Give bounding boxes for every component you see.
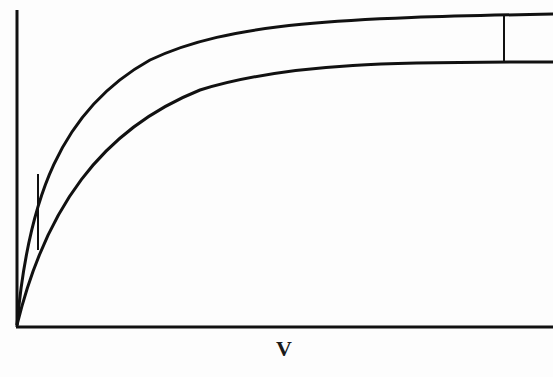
- diagram-canvas: [0, 0, 553, 377]
- x-axis-label: V: [276, 336, 292, 362]
- upper-saturation-curve: [17, 14, 553, 325]
